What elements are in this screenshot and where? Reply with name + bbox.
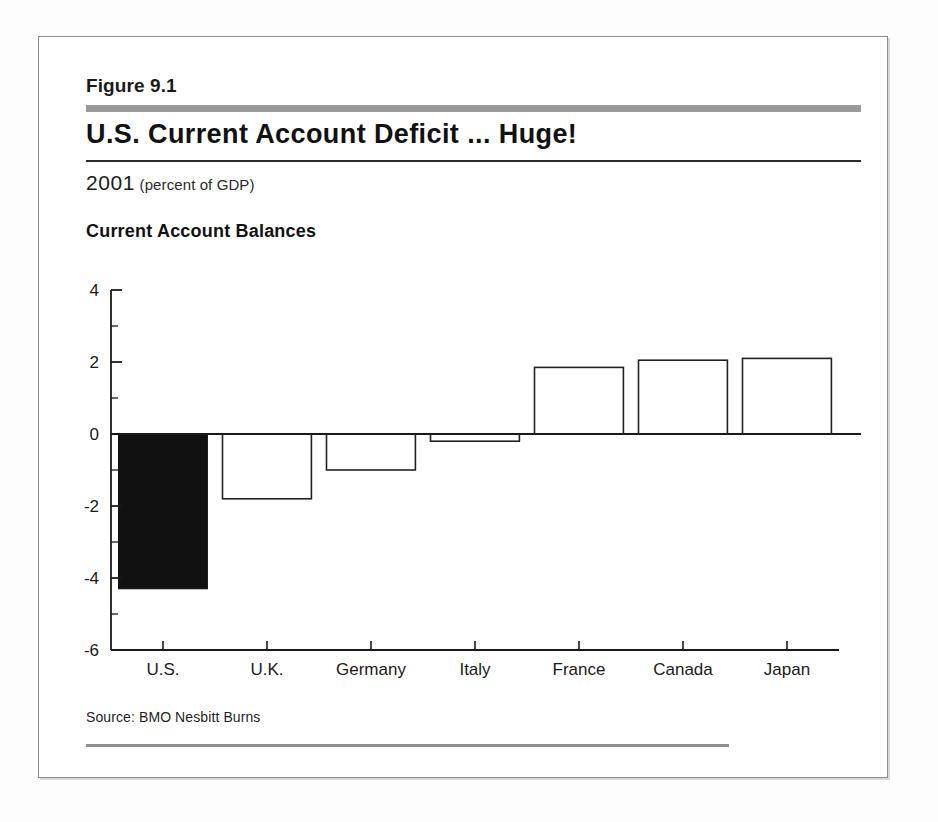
x-category-label: Japan: [764, 660, 810, 679]
source-note: Source: BMO Nesbitt Burns: [86, 709, 260, 725]
chart-svg: 420-2-4-6 U.S.U.K.GermanyItalyFranceCana…: [39, 37, 887, 777]
figure-panel: Figure 9.1 U.S. Current Account Deficit …: [38, 36, 888, 778]
bar-chart: 420-2-4-6 U.S.U.K.GermanyItalyFranceCana…: [39, 37, 887, 777]
y-tick-label: -2: [84, 497, 99, 516]
x-category-labels: U.S.U.K.GermanyItalyFranceCanadaJapan: [146, 660, 810, 679]
bar-france: [535, 367, 624, 434]
bar-us: [119, 434, 208, 589]
x-category-label: Italy: [459, 660, 491, 679]
bar-canada: [639, 360, 728, 434]
bar-uk: [223, 434, 312, 499]
page-canvas: Figure 9.1 U.S. Current Account Deficit …: [0, 0, 938, 822]
bars-group: [119, 358, 832, 588]
bar-japan: [743, 358, 832, 434]
y-tick-label: -6: [84, 641, 99, 660]
y-tick-label: 2: [90, 353, 99, 372]
x-category-label: U.S.: [146, 660, 179, 679]
y-tick-label: -4: [84, 569, 99, 588]
x-category-label: Germany: [336, 660, 406, 679]
x-category-label: U.K.: [250, 660, 283, 679]
bar-germany: [327, 434, 416, 470]
y-tick-label: 0: [90, 425, 99, 444]
footer-rule: [86, 744, 729, 747]
bar-italy: [431, 434, 520, 441]
x-category-label: France: [553, 660, 606, 679]
y-tick-labels: 420-2-4-6: [84, 281, 99, 660]
y-tick-label: 4: [90, 281, 99, 300]
x-category-label: Canada: [653, 660, 713, 679]
